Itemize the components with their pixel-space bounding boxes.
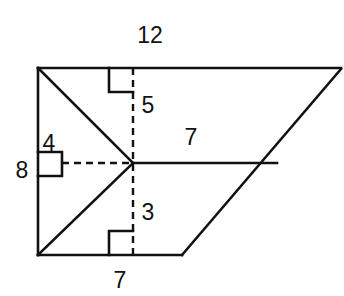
label-top-12: 12	[137, 24, 163, 47]
label-altitude-5: 5	[142, 94, 155, 117]
geometry-figure: 12 5 4 8 7 3 7	[0, 0, 344, 296]
label-altitude-3: 3	[142, 201, 155, 224]
label-middle-7: 7	[185, 126, 198, 149]
shape-fill	[38, 68, 341, 255]
label-bottom-7: 7	[114, 269, 127, 292]
label-left-4: 4	[43, 132, 56, 155]
label-left-8: 8	[16, 159, 29, 182]
